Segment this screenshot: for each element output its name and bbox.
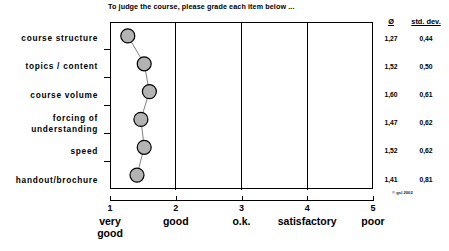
- std-dev-value: 0,44: [406, 35, 446, 42]
- copyright-note: © gsl 2002: [392, 190, 413, 195]
- chart-title: To judge the course, please grade each i…: [108, 2, 295, 11]
- x-tick-mark: [373, 196, 374, 201]
- category-label-course-structure: course structure: [21, 33, 98, 44]
- mean-value: 1,60: [378, 91, 404, 98]
- gridline-3: [241, 23, 242, 190]
- x-tick-mark: [307, 196, 308, 201]
- y-tick-divider: [104, 49, 110, 50]
- x-tick-mark: [176, 196, 177, 201]
- category-label-forcing-of-understanding-line1: forcing of: [53, 113, 98, 124]
- mean-value: 1,41: [378, 176, 404, 183]
- x-tick-number: 4: [287, 203, 327, 213]
- x-tick-number: 3: [222, 203, 262, 213]
- std-dev-value: 0,50: [406, 63, 446, 70]
- mean-value: 1,52: [378, 147, 404, 154]
- std-dev-value: 0,62: [406, 119, 446, 126]
- y-tick-divider: [104, 161, 110, 162]
- gridline-4: [307, 23, 308, 190]
- category-label-topics-content: topics / content: [25, 61, 98, 72]
- column-header-mean: Ø: [378, 17, 404, 26]
- x-tick-number: 2: [156, 203, 196, 213]
- plot-area: [110, 22, 373, 189]
- category-label-forcing-of-understanding-line2: understanding: [31, 124, 98, 135]
- x-tick-number: 1: [90, 203, 130, 213]
- x-tick-number: 5: [353, 203, 393, 213]
- gridline-2: [175, 23, 176, 190]
- x-tick-label: poor: [328, 215, 418, 227]
- mean-value: 1,47: [378, 119, 404, 126]
- mean-value: 1,27: [378, 35, 404, 42]
- y-tick-divider: [104, 105, 110, 106]
- std-dev-value: 0,81: [406, 176, 446, 183]
- category-label-speed: speed: [71, 146, 98, 157]
- std-dev-value: 0,62: [406, 147, 446, 154]
- y-tick-divider: [104, 77, 110, 78]
- evaluation-chart: To judge the course, please grade each i…: [0, 0, 449, 251]
- x-tick-mark: [110, 196, 111, 201]
- y-tick-divider: [104, 133, 110, 134]
- category-label-course-volume: course volume: [30, 90, 98, 101]
- column-header-std-dev: std. dev.: [406, 17, 446, 26]
- mean-value: 1,52: [378, 63, 404, 70]
- category-label-handout-brochure: handout/brochure: [16, 175, 98, 186]
- std-dev-value: 0,61: [406, 91, 446, 98]
- x-tick-mark: [242, 196, 243, 201]
